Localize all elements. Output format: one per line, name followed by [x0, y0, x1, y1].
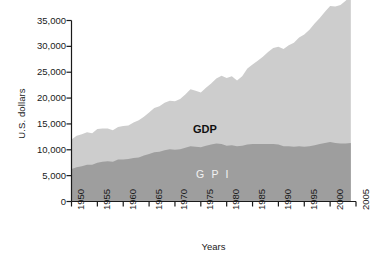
x-axis-tick-labels: 1950195519601965197019751980198519901995… [0, 0, 372, 260]
x-tick-label: 1965 [154, 188, 164, 209]
x-tick-label: 1955 [102, 188, 112, 209]
x-tick-label: 1980 [231, 188, 241, 209]
x-tick-label: 1975 [205, 188, 215, 209]
gdp-gpi-area-chart: U.S. dollars 05,00010,00015,00020,00025,… [0, 0, 372, 260]
x-axis-title: Years [71, 241, 356, 252]
x-tick-label: 2005 [361, 188, 371, 209]
x-tick-label: 1970 [179, 188, 189, 209]
x-tick-label: 1990 [283, 188, 293, 209]
x-tick-label: 1960 [128, 188, 138, 209]
x-tick-label: 1995 [309, 188, 319, 209]
x-tick-label: 1950 [76, 188, 86, 209]
x-tick-label: 1985 [257, 188, 267, 209]
x-tick-label: 2000 [335, 188, 345, 209]
